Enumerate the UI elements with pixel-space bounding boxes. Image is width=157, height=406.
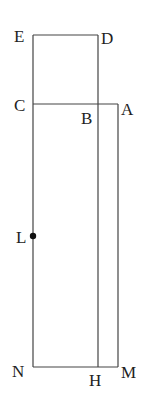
label-H: H	[89, 371, 101, 390]
label-E: E	[14, 27, 24, 46]
label-A: A	[121, 100, 134, 119]
geometry-diagram: E D C B A L N H M	[0, 0, 157, 406]
label-B: B	[81, 109, 92, 128]
label-L: L	[16, 228, 26, 247]
label-N: N	[12, 362, 24, 381]
point-L-dot	[30, 233, 36, 239]
label-C: C	[14, 96, 25, 115]
label-D: D	[101, 29, 113, 48]
label-M: M	[121, 363, 136, 382]
